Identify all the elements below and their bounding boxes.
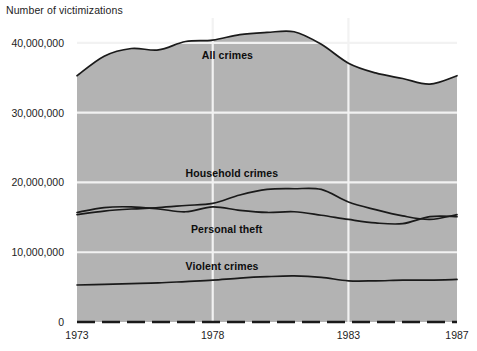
series-label-household-crimes: Household crimes [186, 167, 279, 179]
series-label-personal-theft: Personal theft [191, 223, 262, 235]
series-label-all-crimes: All crimes [202, 49, 253, 61]
x-tick-label: 1987 [445, 329, 468, 341]
x-tick-label: 1973 [65, 329, 88, 341]
series-label-violent-crimes: Violent crimes [186, 260, 259, 272]
chart-container: Number of victimizations 40,000,000 30,0… [0, 0, 477, 351]
x-tick-label: 1978 [201, 329, 224, 341]
x-tick-label: 1983 [337, 329, 360, 341]
